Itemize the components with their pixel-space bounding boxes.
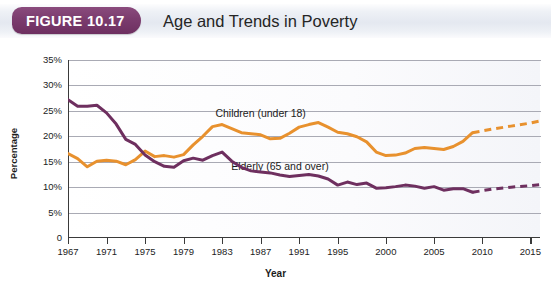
x-tick-label: 2015 — [508, 246, 551, 257]
x-tick-label: 2010 — [460, 246, 504, 257]
children-line-solid — [68, 123, 473, 167]
y-tick-label: 10% — [16, 181, 62, 192]
figure-title: Age and Trends in Poverty — [163, 9, 357, 34]
x-tick-mark — [338, 238, 339, 244]
y-tick-label: 15% — [16, 156, 62, 167]
x-tick-mark — [299, 238, 300, 244]
x-tick-label: 1987 — [239, 246, 283, 257]
figure-number-label: FIGURE 10.17 — [26, 13, 125, 29]
x-tick-mark — [482, 238, 483, 244]
x-tick-mark — [530, 238, 531, 244]
series-lines — [68, 60, 540, 238]
y-tick-label: 35% — [16, 54, 62, 65]
x-tick-label: 2005 — [412, 246, 456, 257]
elderly-line-solid — [68, 100, 473, 193]
x-tick-label: 1979 — [162, 246, 206, 257]
x-tick-label: 1991 — [277, 246, 321, 257]
x-tick-mark — [434, 238, 435, 244]
x-tick-mark — [261, 238, 262, 244]
x-tick-mark — [68, 238, 69, 244]
children-line-dashed — [473, 121, 540, 133]
x-tick-label: 2000 — [364, 246, 408, 257]
figure-number-badge: FIGURE 10.17 — [12, 7, 141, 34]
y-tick-label: 0 — [16, 232, 62, 243]
x-tick-label: 1983 — [200, 246, 244, 257]
x-tick-label: 1971 — [85, 246, 129, 257]
elderly-line-dashed — [473, 185, 540, 193]
x-tick-label: 1975 — [123, 246, 167, 257]
y-tick-label: 25% — [16, 105, 62, 116]
x-axis-title: Year — [0, 268, 551, 279]
y-tick-label: 5% — [16, 207, 62, 218]
chart-area: Percentage Year 05%10%15%20%25%30%35% 19… — [0, 40, 551, 285]
x-tick-mark — [145, 238, 146, 244]
x-tick-mark — [107, 238, 108, 244]
x-tick-label: 1995 — [316, 246, 360, 257]
x-tick-mark — [222, 238, 223, 244]
x-tick-mark — [184, 238, 185, 244]
x-tick-mark — [386, 238, 387, 244]
y-tick-label: 30% — [16, 79, 62, 90]
x-tick-label: 1967 — [46, 246, 90, 257]
figure-poverty-trends: FIGURE 10.17 Age and Trends in Poverty P… — [0, 0, 551, 285]
y-tick-label: 20% — [16, 130, 62, 141]
